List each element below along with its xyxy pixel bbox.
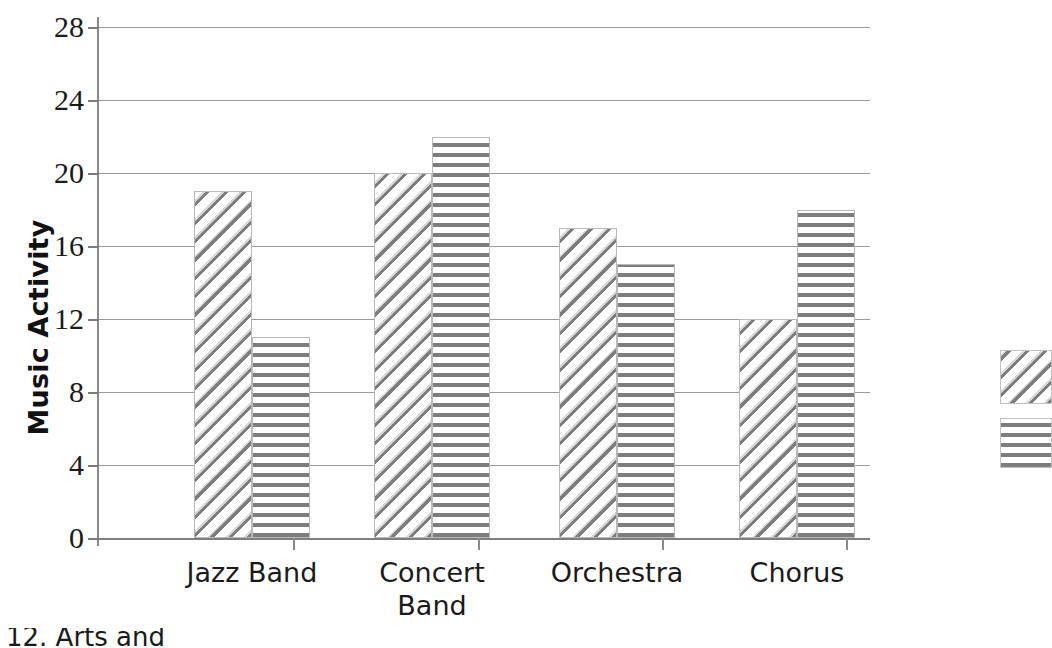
- chart-legend: [1000, 350, 1052, 468]
- bar-concert-band-series-1: [374, 173, 432, 538]
- bar-concert-band-series-2: [432, 137, 490, 539]
- bar-chorus-series-1: [739, 319, 797, 538]
- y-tick-label-16: 16: [54, 231, 84, 261]
- gridline-0: [97, 538, 870, 540]
- y-tick-label-24: 24: [54, 85, 84, 115]
- y-tick-mark-0: [88, 538, 99, 540]
- gridline-24: [97, 100, 870, 101]
- bar-jazz-band-series-1: [194, 191, 252, 538]
- y-tick-label-20: 20: [54, 158, 84, 188]
- figure-caption-text: 12. Arts and: [6, 628, 165, 648]
- legend-swatch-series-2: [1000, 418, 1052, 468]
- x-tick-mark-0: [293, 538, 295, 550]
- x-tick-mark-3: [846, 538, 848, 550]
- x-tick-mark-2: [662, 538, 664, 550]
- figure-caption-clipped: 12. Arts and: [0, 628, 420, 648]
- x-axis-label-line: Jazz Band: [187, 557, 318, 588]
- y-tick-mark-8: [88, 392, 99, 394]
- y-tick-mark-20: [88, 173, 99, 175]
- x-axis-label-line: Orchestra: [551, 557, 684, 588]
- y-tick-mark-28: [88, 27, 99, 29]
- x-axis-label-line: Chorus: [750, 557, 845, 588]
- legend-swatch-series-1: [1000, 350, 1052, 404]
- x-axis-label-jazz-band: Jazz Band: [157, 556, 347, 589]
- y-tick-label-0: 0: [69, 523, 84, 553]
- y-axis-title: Music Activity: [23, 198, 54, 458]
- x-axis-label-orchestra: Orchestra: [522, 556, 712, 589]
- gridline-28: [97, 27, 870, 28]
- bar-jazz-band-series-2: [252, 337, 310, 538]
- y-tick-mark-24: [88, 100, 99, 102]
- bar-orchestra-series-2: [617, 264, 675, 538]
- y-tick-label-4: 4: [69, 450, 84, 480]
- y-tick-mark-4: [88, 465, 99, 467]
- y-tick-mark-16: [88, 246, 99, 248]
- x-axis-label-concert-band: ConcertBand: [337, 556, 527, 622]
- y-tick-label-12: 12: [54, 304, 84, 334]
- x-axis-label-line: Band: [337, 589, 527, 622]
- x-tick-mark-1: [478, 538, 480, 550]
- x-axis-label-line: Concert: [379, 557, 485, 588]
- bar-chorus-series-2: [797, 210, 855, 539]
- y-tick-label-8: 8: [69, 377, 84, 407]
- y-tick-label-28: 28: [54, 12, 84, 42]
- plot-area: 2824201612840: [97, 27, 870, 538]
- y-tick-mark-12: [88, 319, 99, 321]
- bar-orchestra-series-1: [559, 228, 617, 538]
- x-axis-label-chorus: Chorus: [702, 556, 892, 589]
